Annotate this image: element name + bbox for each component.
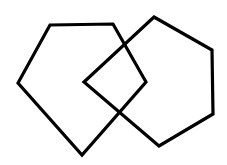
overlapping-polygons-diagram <box>0 0 227 165</box>
right-pentagon <box>84 17 213 146</box>
